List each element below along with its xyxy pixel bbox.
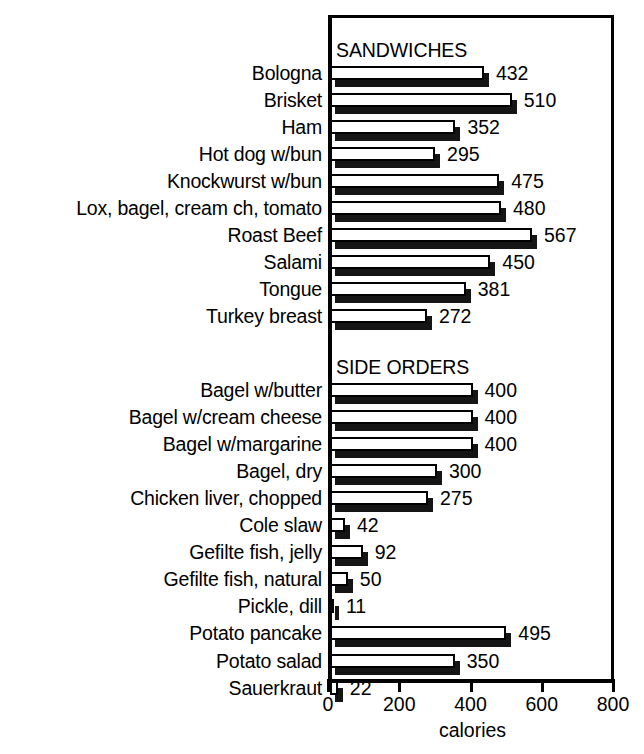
- bar-value-label: 400: [485, 434, 518, 455]
- section-heading-sandwiches: SANDWICHES: [336, 40, 467, 61]
- bar-value-label: 381: [478, 279, 511, 300]
- category-label: Roast Beef: [228, 225, 322, 246]
- bar: [330, 383, 473, 397]
- bar: [330, 255, 490, 269]
- bar: [330, 228, 532, 242]
- category-label: Bagel w/margarine: [163, 434, 322, 455]
- bar-value-label: 92: [375, 542, 397, 563]
- bar: [330, 572, 348, 586]
- x-tick-label: 400: [454, 693, 487, 715]
- bar: [330, 120, 455, 134]
- x-tick-mark: [470, 679, 473, 692]
- bar-group: 510: [330, 93, 612, 115]
- bar-value-label: 42: [357, 515, 379, 536]
- category-label: Tongue: [259, 279, 322, 300]
- bar-value-label: 475: [511, 171, 544, 192]
- bar-group: 295: [330, 147, 612, 169]
- bar: [330, 437, 473, 451]
- calories-bar-chart: BolognaBrisketHamHot dog w/bunKnockwurst…: [0, 0, 644, 754]
- bar-value-label: 567: [544, 225, 577, 246]
- bar: [330, 410, 473, 424]
- category-label: Chicken liver, chopped: [130, 488, 322, 509]
- x-tick-mark: [541, 679, 544, 692]
- bar-group: 352: [330, 120, 612, 142]
- category-label: Gefilte fish, jelly: [189, 542, 322, 563]
- bar-group: 300: [330, 464, 612, 486]
- category-label: Bagel w/cream cheese: [129, 407, 322, 428]
- category-label: Hot dog w/bun: [199, 144, 322, 165]
- bar-group: 350: [330, 654, 612, 676]
- bar-shadow: [335, 606, 339, 620]
- category-label: Knockwurst w/bun: [167, 171, 322, 192]
- bar: [330, 309, 427, 323]
- category-label: Bagel, dry: [236, 461, 322, 482]
- bar-value-label: 352: [467, 117, 500, 138]
- bar-group: 400: [330, 383, 612, 405]
- bar-value-label: 450: [502, 252, 535, 273]
- category-label: Pickle, dill: [238, 596, 322, 617]
- bar: [330, 545, 363, 559]
- bar-group: 567: [330, 228, 612, 250]
- x-tick-mark: [327, 679, 330, 692]
- x-axis: 0200400600800 calories: [328, 679, 617, 749]
- category-label: Turkey breast: [206, 306, 322, 327]
- plot-content: SANDWICHES432510352295475480567450381272…: [328, 15, 614, 683]
- bar-value-label: 400: [485, 380, 518, 401]
- bar-value-label: 495: [518, 623, 551, 644]
- bar-group: 272: [330, 309, 612, 331]
- category-label: Bologna: [252, 63, 322, 84]
- category-label: Brisket: [264, 90, 322, 111]
- bar: [330, 147, 435, 161]
- category-label: Cole slaw: [239, 515, 322, 536]
- category-label: Potato pancake: [189, 623, 322, 644]
- bar-group: 475: [330, 174, 612, 196]
- bar: [330, 201, 501, 215]
- bar-group: 381: [330, 282, 612, 304]
- bar-value-label: 295: [447, 144, 480, 165]
- bar-value-label: 275: [440, 488, 473, 509]
- bar-group: 495: [330, 626, 612, 648]
- category-label: Bagel w/butter: [200, 380, 322, 401]
- bar-group: 50: [330, 572, 612, 594]
- bar-group: 450: [330, 255, 612, 277]
- bar: [330, 93, 512, 107]
- bar-value-label: 432: [496, 63, 529, 84]
- x-tick-mark: [398, 679, 401, 692]
- bar-group: 400: [330, 437, 612, 459]
- category-label: Potato salad: [216, 651, 322, 672]
- bar: [330, 518, 345, 532]
- bar: [330, 599, 334, 613]
- bar-value-label: 50: [360, 569, 382, 590]
- category-label: Gefilte fish, natural: [164, 569, 322, 590]
- bar: [330, 626, 506, 640]
- bar-value-label: 11: [346, 596, 366, 617]
- bar: [330, 174, 499, 188]
- bar-group: 275: [330, 491, 612, 513]
- bar-value-label: 300: [449, 461, 482, 482]
- bar-group: 92: [330, 545, 612, 567]
- x-tick-label: 200: [383, 693, 416, 715]
- category-label: Salami: [264, 252, 322, 273]
- bar-value-label: 272: [439, 306, 472, 327]
- bar: [330, 282, 466, 296]
- bar-value-label: 510: [524, 90, 557, 111]
- bar-group: 480: [330, 201, 612, 223]
- x-tick-label: 800: [597, 693, 630, 715]
- x-tick-mark: [612, 679, 615, 692]
- category-label: Sauerkraut: [229, 678, 322, 699]
- bar: [330, 491, 428, 505]
- bar: [330, 654, 455, 668]
- category-label-column: BolognaBrisketHamHot dog w/bunKnockwurst…: [0, 15, 322, 683]
- category-label: Ham: [281, 117, 322, 138]
- x-tick-label: 600: [525, 693, 558, 715]
- bar-group: 432: [330, 66, 612, 88]
- category-label: Lox, bagel, cream ch, tomato: [76, 198, 322, 219]
- x-axis-title: calories: [328, 719, 617, 741]
- section-heading-side-orders: SIDE ORDERS: [336, 357, 469, 378]
- bar: [330, 66, 484, 80]
- bar-value-label: 350: [467, 651, 500, 672]
- x-tick-label: 0: [323, 693, 334, 715]
- bar: [330, 464, 437, 478]
- bar-value-label: 480: [513, 198, 546, 219]
- bar-value-label: 400: [485, 407, 518, 428]
